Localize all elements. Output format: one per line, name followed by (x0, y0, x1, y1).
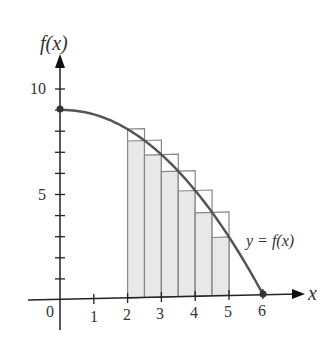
curve-label: y = f(x) (244, 232, 294, 250)
lower-rectangle (161, 171, 178, 297)
lower-rectangle (145, 155, 162, 298)
y-tick-label-10: 10 (30, 80, 46, 97)
x-axis-label: x (307, 282, 317, 304)
lower-rectangle (195, 212, 212, 296)
y-axis-label: f(x) (40, 32, 68, 55)
lower-rectangle (212, 237, 229, 296)
origin-label: 0 (46, 303, 54, 320)
x-tick-label-6: 6 (258, 302, 266, 319)
lower-rectangle (178, 191, 195, 297)
x-tick-label-1: 1 (90, 308, 98, 325)
point-0-9 (57, 106, 64, 113)
x-tick-label-2: 2 (123, 306, 131, 323)
lower-rectangle (128, 141, 145, 298)
x-axis-arrow-icon (292, 289, 305, 299)
y-axis-arrow-icon (55, 54, 65, 68)
x-tick-label-5: 5 (224, 303, 232, 320)
y-tick-label-5: 5 (38, 186, 46, 203)
x-tick-label-3: 3 (156, 305, 164, 322)
riemann-sum-diagram: f(x) x 0 1 2 3 4 5 6 5 10 y = f(x) (0, 0, 331, 360)
point-6-0 (260, 291, 267, 298)
x-tick-label-4: 4 (190, 304, 198, 321)
